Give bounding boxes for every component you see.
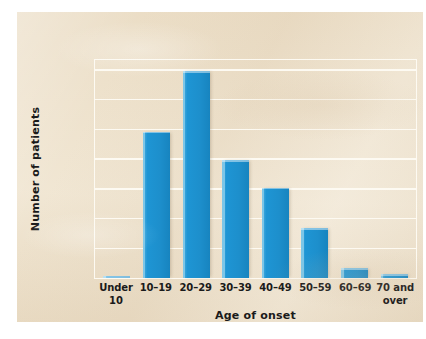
x-tick-label: 70 andover [375, 282, 415, 307]
bar-slot [137, 60, 177, 278]
bar[interactable] [381, 274, 408, 278]
x-axis-ticks: Under1010–1920–2930–3940–4950–5960–6970 … [94, 282, 417, 307]
bar[interactable] [143, 132, 170, 278]
bar-slot [374, 60, 414, 278]
x-tick-label: 50–59 [295, 282, 335, 307]
x-tick-label: 10–19 [136, 282, 176, 307]
bar[interactable] [222, 160, 249, 278]
bar-slot [256, 60, 296, 278]
chart-figure: Number of patients 060120180240300360420… [0, 0, 426, 339]
chart-panel: Number of patients 060120180240300360420… [17, 12, 423, 322]
x-axis-label: Age of onset [94, 309, 417, 322]
x-tick-label: Under10 [96, 282, 136, 307]
bar-slot [295, 60, 335, 278]
bar[interactable] [341, 268, 368, 278]
bar[interactable] [103, 276, 130, 278]
bar[interactable] [262, 188, 289, 278]
x-tick-label: 60–69 [335, 282, 375, 307]
y-axis-label: Number of patients [29, 107, 42, 231]
x-tick-label: 20–29 [176, 282, 216, 307]
bar-slot [97, 60, 137, 278]
bar[interactable] [183, 71, 210, 278]
bar-slot [176, 60, 216, 278]
bar-slot [216, 60, 256, 278]
bar[interactable] [301, 228, 328, 278]
x-tick-label: 30–39 [216, 282, 256, 307]
bar-slot [335, 60, 375, 278]
bar-group [95, 60, 416, 278]
x-tick-label: 40–49 [256, 282, 296, 307]
plot-area: 060120180240300360420 [94, 59, 417, 279]
